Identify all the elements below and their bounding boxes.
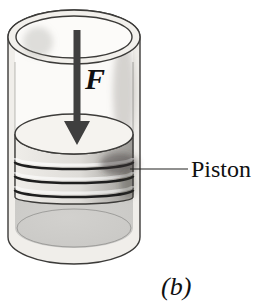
subfigure-label: (b) bbox=[161, 272, 191, 301]
piston-cylinder-figure: F Piston (b) bbox=[0, 0, 256, 307]
piston-skirt-shading bbox=[120, 171, 136, 197]
force-label: F bbox=[84, 62, 105, 95]
piston-label: Piston bbox=[191, 156, 251, 182]
piston-ring-shading bbox=[100, 153, 138, 175]
opening-shading-left bbox=[23, 27, 53, 57]
diagram-canvas: F Piston (b) bbox=[0, 0, 256, 307]
